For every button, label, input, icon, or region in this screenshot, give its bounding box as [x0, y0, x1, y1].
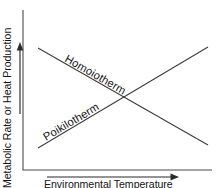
y-axis-title: Metabolic Rate or Heat Production [0, 0, 14, 188]
thermal-response-figure: Homoiotherm Poikilotherm Metabolic Rate … [0, 0, 220, 188]
x-axis-title: Environmental Temperature [44, 178, 173, 188]
plot-area: Homoiotherm Poikilotherm [0, 0, 220, 188]
poikilotherm-label: Poikilotherm [41, 100, 101, 142]
homoiotherm-label: Homoiotherm [63, 52, 128, 96]
y-axis-direction-arrow [17, 42, 24, 114]
